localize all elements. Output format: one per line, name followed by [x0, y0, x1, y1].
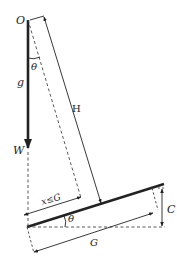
- height-label: H: [72, 103, 81, 114]
- theta-arc-top: [28, 57, 40, 59]
- top-connector: [30, 16, 44, 20]
- gap-label: G: [90, 237, 98, 248]
- diagram-canvas: O θ g W H x≤G θ G C: [0, 0, 177, 268]
- rise-label: C: [167, 203, 176, 216]
- right-perp-dashed: [152, 188, 158, 210]
- theta-arc-bottom: [64, 216, 66, 227]
- theta-bottom-label: θ: [68, 213, 74, 224]
- x-constraint-label: x≤G: [40, 192, 62, 207]
- left-perp-dashed: [27, 227, 34, 253]
- theta-top-label: θ: [31, 61, 37, 72]
- weight-label: W: [13, 144, 26, 157]
- incline-diagram: O θ g W H x≤G θ G C: [0, 0, 177, 268]
- gravity-label: g: [17, 76, 24, 89]
- origin-label: O: [16, 14, 25, 27]
